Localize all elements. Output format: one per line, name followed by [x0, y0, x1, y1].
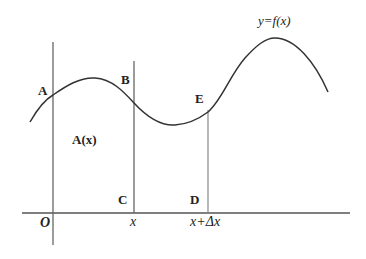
point-e-label: E [195, 92, 204, 105]
curve-label: y=f(x) [258, 14, 291, 27]
x-plus-dx-tick-label: x+Δx [190, 215, 220, 229]
point-d-label: D [190, 193, 199, 206]
diagram-canvas [0, 0, 366, 259]
origin-label: O [40, 216, 50, 230]
point-c-label: C [118, 193, 127, 206]
x-tick-label: x [130, 215, 136, 229]
area-label: A(x) [72, 133, 97, 146]
area-function-diagram: y=f(x) A B E A(x) C D O x x+Δx [0, 0, 366, 259]
function-curve [30, 38, 328, 125]
point-a-label: A [38, 84, 47, 97]
point-b-label: B [121, 73, 130, 86]
